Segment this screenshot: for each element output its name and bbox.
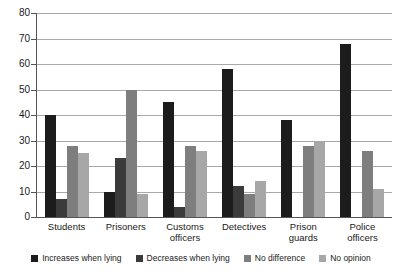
y-axis-tick-label: 80	[19, 8, 30, 18]
bar	[56, 199, 67, 217]
legend-item-label: No opinion	[330, 253, 371, 263]
bar-group	[333, 13, 392, 217]
y-axis-tick-label: 30	[19, 136, 30, 146]
bar	[373, 189, 384, 217]
x-axis-label-line: Prisoners	[96, 221, 155, 232]
bar-chart: 01020304050607080 StudentsPrisonersCusto…	[0, 0, 402, 274]
legend-item[interactable]: No difference	[244, 253, 305, 263]
bar	[126, 90, 137, 218]
bar-group	[37, 13, 96, 217]
legend-swatch-icon	[244, 255, 251, 262]
bar-groups	[37, 13, 392, 217]
bar	[45, 115, 56, 217]
legend-item-label: Increases when lying	[42, 253, 121, 263]
x-axis-label: Policeofficers	[333, 221, 392, 243]
y-axis-tick-label: 20	[19, 161, 30, 171]
x-axis-label-line: Prison	[274, 221, 333, 232]
legend-swatch-icon	[136, 255, 143, 262]
bar-group	[274, 13, 333, 217]
y-axis-tick-label: 40	[19, 110, 30, 120]
y-axis-tick-label: 50	[19, 85, 30, 95]
y-axis: 01020304050607080	[0, 13, 36, 219]
y-axis-tick-label: 70	[19, 34, 30, 44]
bar	[281, 120, 292, 217]
legend-item[interactable]: Decreases when lying	[136, 253, 230, 263]
bar	[340, 44, 351, 217]
x-axis-label-line: Customs	[155, 221, 214, 232]
x-axis-label: Detectives	[215, 221, 274, 243]
bar	[174, 207, 185, 217]
bar	[185, 146, 196, 217]
legend-item[interactable]: No opinion	[319, 253, 371, 263]
legend-swatch-icon	[319, 255, 326, 262]
legend-item-label: No difference	[255, 253, 305, 263]
x-axis-label: Prisoners	[96, 221, 155, 243]
x-axis-label: Students	[37, 221, 96, 243]
chart-legend: Increases when lyingDecreases when lying…	[0, 253, 402, 263]
x-axis-label: Prisonguards	[274, 221, 333, 243]
bar	[314, 141, 325, 218]
bar-group	[215, 13, 274, 217]
x-axis-label-line: officers	[155, 232, 214, 243]
legend-item-label: Decreases when lying	[147, 253, 230, 263]
x-axis-labels: StudentsPrisonersCustomsofficersDetectiv…	[37, 221, 392, 243]
bar	[196, 151, 207, 217]
x-axis-label-line: Police	[333, 221, 392, 232]
bar	[222, 69, 233, 217]
bar	[137, 194, 148, 217]
y-axis-tick-label: 0	[24, 212, 30, 222]
bar	[362, 151, 373, 217]
bar	[233, 186, 244, 217]
x-axis-label-line: guards	[274, 232, 333, 243]
bar	[244, 194, 255, 217]
bar	[115, 158, 126, 217]
x-axis-label: Customsofficers	[155, 221, 214, 243]
legend-item[interactable]: Increases when lying	[31, 253, 121, 263]
bar-group	[155, 13, 214, 217]
x-axis-label-line: officers	[333, 232, 392, 243]
legend-swatch-icon	[31, 255, 38, 262]
y-axis-tick-label: 60	[19, 59, 30, 69]
x-axis-label-line: Detectives	[215, 221, 274, 232]
bar	[67, 146, 78, 217]
y-axis-tick-label: 10	[19, 187, 30, 197]
bar	[78, 153, 89, 217]
bar-group	[96, 13, 155, 217]
bar	[104, 192, 115, 218]
bar	[303, 146, 314, 217]
x-axis-label-line: Students	[37, 221, 96, 232]
bar	[163, 102, 174, 217]
bar	[255, 181, 266, 217]
